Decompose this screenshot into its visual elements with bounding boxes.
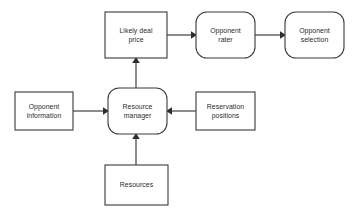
node-likely-deal-price-shape[interactable] <box>105 12 167 58</box>
node-opponent-selection-shape[interactable] <box>285 12 344 58</box>
node-opponent-rater-shape[interactable] <box>196 12 255 58</box>
node-shape-layer <box>15 12 344 205</box>
node-opponent-information-shape[interactable] <box>15 92 73 130</box>
edge-manager-to-price <box>132 57 140 88</box>
edge-rater-to-selection <box>255 31 286 39</box>
node-resources-shape[interactable] <box>105 165 168 205</box>
node-resource-manager-shape[interactable] <box>108 88 167 134</box>
edge-price-to-rater <box>167 31 197 39</box>
node-reservation-positions-shape[interactable] <box>196 92 255 130</box>
edge-resources-to-manager <box>132 133 140 165</box>
edge-reservation-to-manager <box>166 107 196 115</box>
edge-information-to-manager <box>73 107 109 115</box>
diagram-canvas: Likely deal price Opponent rater Opponen… <box>0 0 356 223</box>
diagram-vector-layer <box>0 0 356 223</box>
